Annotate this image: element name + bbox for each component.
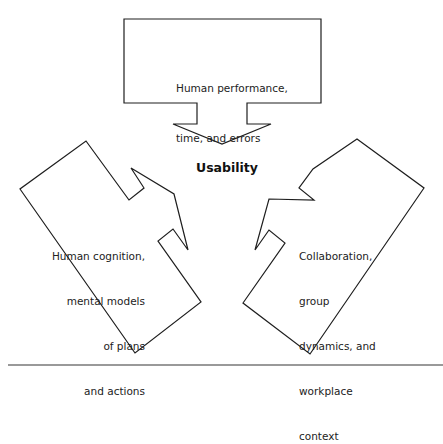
right-node-label: Collaboration, group dynamics, and workp… (299, 219, 376, 444)
left-node-line: of plans (52, 339, 145, 354)
left-node-line: mental models (52, 294, 145, 309)
top-node-label: Human performance, time, and errors (176, 47, 288, 163)
top-node-line: Human performance, (176, 80, 288, 97)
right-node-line: workplace (299, 384, 376, 399)
right-node-line: Collaboration, (299, 249, 376, 264)
right-node-line: dynamics, and (299, 339, 376, 354)
right-node-line: group (299, 294, 376, 309)
center-label: Usability (196, 160, 258, 175)
top-node-line: time, and errors (176, 130, 288, 147)
left-node-line: and actions (52, 384, 145, 399)
right-node-line: context (299, 429, 376, 444)
left-node-label: Human cognition, mental models of plans … (52, 219, 145, 414)
left-node-line: Human cognition, (52, 249, 145, 264)
